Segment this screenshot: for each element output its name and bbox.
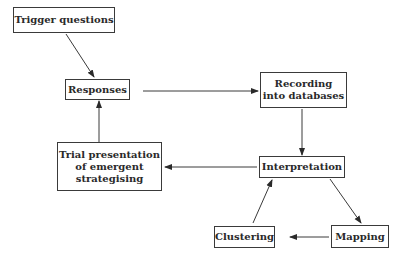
diagram-edges (0, 0, 400, 261)
node-interpretation: Interpretation (259, 156, 345, 178)
edge-trigger-to-responses (66, 34, 94, 77)
node-responses: Responses (65, 79, 130, 100)
node-trigger-questions: Trigger questions (13, 7, 115, 33)
node-clustering: Clustering (214, 226, 275, 248)
node-mapping: Mapping (331, 225, 389, 248)
node-trial-presentation: Trial presentation of emergent strategis… (57, 142, 162, 191)
edge-clustering-to-interpretation (253, 180, 272, 223)
node-recording-into-databases: Recording into databases (260, 72, 347, 108)
edge-interpretation-to-mapping (330, 179, 361, 223)
